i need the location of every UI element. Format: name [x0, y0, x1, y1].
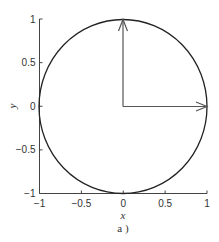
x-tick-label: −1: [34, 198, 46, 209]
vectors: [119, 20, 208, 112]
y-tick-label: 1: [30, 14, 36, 25]
x-tick-label: −0.5: [72, 198, 92, 209]
y-tick-label: 0: [30, 101, 36, 112]
chart: −1−0.500.51 −1−0.500.51 x y a ): [0, 0, 219, 242]
x-tick-label: 0: [120, 198, 126, 209]
x-tick-label: 1: [204, 198, 210, 209]
x-tick-label: 0.5: [158, 198, 172, 209]
y-axis-label: y: [6, 103, 18, 109]
y-tick-label: 0.5: [22, 57, 36, 68]
y-tick-label: −0.5: [16, 144, 36, 155]
figure-caption: a ): [117, 222, 129, 235]
x-axis-label: x: [120, 209, 126, 221]
